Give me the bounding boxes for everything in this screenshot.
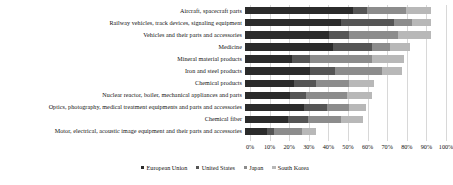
- stacked-bar[interactable]: [245, 31, 431, 38]
- stacked-bar[interactable]: [245, 116, 363, 123]
- category-label: Aircraft, spacecraft parts: [0, 8, 245, 15]
- bar-segment-japan[interactable]: [367, 7, 406, 14]
- x-tick-label: 100%: [439, 142, 453, 151]
- category-label: Medicine: [0, 44, 245, 51]
- bar-track: [245, 17, 441, 29]
- chart-row: Chemical fiber: [0, 114, 450, 126]
- plot-area: Aircraft, spacecraft partsRailway vehicl…: [0, 0, 450, 142]
- bar-segment-south-korea[interactable]: [372, 55, 403, 62]
- bar-segment-south-korea[interactable]: [349, 80, 374, 87]
- bar-segment-united-states[interactable]: [329, 31, 349, 38]
- legend-swatch-icon: [196, 166, 199, 169]
- bar-segment-south-korea[interactable]: [412, 19, 432, 26]
- stacked-bar[interactable]: [245, 19, 431, 26]
- legend-swatch-icon: [244, 166, 247, 169]
- bar-segment-south-korea[interactable]: [349, 104, 367, 111]
- legend-label: European Union: [147, 163, 188, 172]
- legend-item-south-korea[interactable]: South Korea: [272, 163, 308, 172]
- stacked-bar[interactable]: [245, 104, 366, 111]
- category-label: Optics, photography, medical treatment e…: [0, 104, 245, 111]
- chart-row: Aircraft, spacecraft parts: [0, 5, 450, 17]
- stacked-bar[interactable]: [245, 80, 374, 87]
- bar-segment-european-union[interactable]: [245, 55, 292, 62]
- category-label: Mineral material products: [0, 56, 245, 63]
- category-label: Iron and steel products: [0, 68, 245, 75]
- category-label: Vehicles and their parts and accessories: [0, 32, 245, 39]
- bar-segment-european-union[interactable]: [245, 7, 353, 14]
- bar-segment-japan[interactable]: [335, 67, 382, 74]
- bar-segment-south-korea[interactable]: [341, 116, 363, 123]
- legend-swatch-icon: [141, 166, 144, 169]
- bar-segment-united-states[interactable]: [288, 116, 308, 123]
- bar-segment-south-korea[interactable]: [398, 31, 431, 38]
- category-label: Motor, electrical, acoustic image equipm…: [0, 128, 245, 135]
- bar-segment-united-states[interactable]: [304, 104, 328, 111]
- bar-track: [245, 90, 441, 102]
- x-tick-label: 20%: [284, 142, 295, 151]
- stacked-bar[interactable]: [245, 7, 431, 14]
- bar-segment-japan[interactable]: [306, 92, 347, 99]
- bar-track: [245, 102, 441, 114]
- bar-segment-japan[interactable]: [274, 128, 301, 135]
- stacked-bar[interactable]: [245, 55, 404, 62]
- x-tick-label: 60%: [362, 142, 373, 151]
- x-tick-label: 80%: [401, 142, 412, 151]
- bar-track: [245, 5, 441, 17]
- bar-segment-european-union[interactable]: [245, 116, 288, 123]
- bar-segment-japan[interactable]: [349, 31, 398, 38]
- bar-track: [245, 78, 441, 90]
- bar-segment-united-states[interactable]: [267, 128, 275, 135]
- bar-segment-united-states[interactable]: [353, 7, 367, 14]
- stacked-bar[interactable]: [245, 128, 316, 135]
- x-axis: 0%10%20%30%40%50%60%70%80%90%100%: [250, 142, 446, 154]
- bar-segment-japan[interactable]: [316, 80, 349, 87]
- legend-item-united-states[interactable]: United States: [196, 163, 235, 172]
- stacked-bar[interactable]: [245, 92, 372, 99]
- category-label: Chemical products: [0, 80, 245, 87]
- chart-row: Railway vehicles, track devices, signali…: [0, 17, 450, 29]
- bar-segment-south-korea[interactable]: [406, 7, 431, 14]
- stacked-bar[interactable]: [245, 67, 402, 74]
- chart-legend: European UnionUnited StatesJapanSouth Ko…: [0, 163, 450, 172]
- bar-segment-european-union[interactable]: [245, 104, 304, 111]
- bar-segment-european-union[interactable]: [245, 43, 333, 50]
- category-label: Railway vehicles, track devices, signali…: [0, 20, 245, 27]
- bar-segment-japan[interactable]: [394, 19, 412, 26]
- bar-segment-south-korea[interactable]: [302, 128, 316, 135]
- bar-segment-european-union[interactable]: [245, 128, 267, 135]
- bar-segment-south-korea[interactable]: [347, 92, 372, 99]
- bar-track: [245, 65, 441, 77]
- bar-segment-european-union[interactable]: [245, 19, 341, 26]
- bar-segment-south-korea[interactable]: [382, 67, 402, 74]
- bar-rows: Aircraft, spacecraft partsRailway vehicl…: [0, 5, 450, 138]
- bar-segment-european-union[interactable]: [245, 67, 310, 74]
- bar-segment-european-union[interactable]: [245, 31, 329, 38]
- legend-item-japan[interactable]: Japan: [244, 163, 263, 172]
- legend-item-european-union[interactable]: European Union: [141, 163, 187, 172]
- bar-segment-united-states[interactable]: [341, 19, 394, 26]
- bar-segment-japan[interactable]: [327, 104, 349, 111]
- chart-row: Optics, photography, medical treatment e…: [0, 102, 450, 114]
- stacked-bar[interactable]: [245, 43, 410, 50]
- bar-segment-japan[interactable]: [308, 116, 341, 123]
- bar-segment-european-union[interactable]: [245, 92, 290, 99]
- bar-track: [245, 53, 441, 65]
- chart-row: Medicine: [0, 41, 450, 53]
- bar-segment-united-states[interactable]: [310, 67, 335, 74]
- bar-segment-japan[interactable]: [372, 43, 390, 50]
- bar-segment-south-korea[interactable]: [390, 43, 410, 50]
- bar-segment-united-states[interactable]: [290, 92, 306, 99]
- legend-label: United States: [202, 163, 235, 172]
- bar-segment-japan[interactable]: [310, 55, 373, 62]
- bar-segment-united-states[interactable]: [294, 80, 316, 87]
- bar-segment-united-states[interactable]: [333, 43, 372, 50]
- bar-segment-united-states[interactable]: [292, 55, 310, 62]
- x-tick-label: 90%: [421, 142, 432, 151]
- x-tick-label: 30%: [303, 142, 314, 151]
- chart-row: Motor, electrical, acoustic image equipm…: [0, 126, 450, 138]
- chart-row: Vehicles and their parts and accessories: [0, 29, 450, 41]
- bar-track: [245, 29, 441, 41]
- x-tick-label: 70%: [382, 142, 393, 151]
- bar-track: [245, 126, 441, 138]
- bar-segment-european-union[interactable]: [245, 80, 294, 87]
